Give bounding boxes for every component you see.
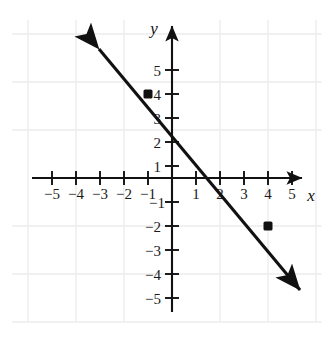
x-tick-label: 5 <box>288 186 296 202</box>
background-grid <box>12 20 322 322</box>
data-point-marker <box>264 222 273 231</box>
y-tick-label: 2 <box>154 135 162 151</box>
y-axis-label: y <box>148 19 158 38</box>
x-axis-tick-labels: −5 −4 −3 −2 −1 1 2 3 4 5 <box>44 186 296 202</box>
y-tick-label: −4 <box>145 267 161 283</box>
y-tick-label: −1 <box>149 195 165 211</box>
x-tick-label: 4 <box>264 186 272 202</box>
y-tick-label: −2 <box>145 219 161 235</box>
x-tick-label: −2 <box>116 186 132 202</box>
x-tick-label: 1 <box>192 186 200 202</box>
y-tick-label: 5 <box>154 63 162 79</box>
y-tick-label: −3 <box>145 243 161 259</box>
x-axis-label: x <box>306 186 315 205</box>
x-tick-label: −3 <box>92 186 108 202</box>
x-tick-label: −5 <box>44 186 60 202</box>
plotted-line-series <box>99 49 300 290</box>
y-tick-label: −5 <box>145 291 161 307</box>
coordinate-graph-figure: −5 −4 −3 −2 −1 1 2 3 4 5 5 4 3 2 1 −1 −2… <box>0 0 330 337</box>
coordinate-plane-svg: −5 −4 −3 −2 −1 1 2 3 4 5 5 4 3 2 1 −1 −2… <box>0 0 330 337</box>
y-tick-label: 4 <box>154 87 162 103</box>
y-tick-label: 1 <box>154 159 162 175</box>
data-point-marker <box>144 90 153 99</box>
x-tick-label: 3 <box>240 186 248 202</box>
x-tick-label: −4 <box>68 186 84 202</box>
